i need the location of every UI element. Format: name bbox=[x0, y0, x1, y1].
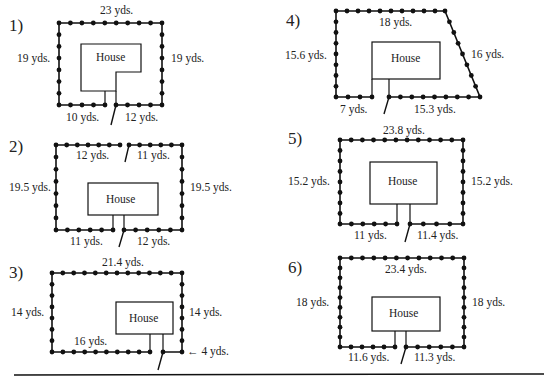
label-bottom-left: 16 yds. bbox=[74, 336, 107, 348]
label-right: 15.2 yds. bbox=[471, 176, 513, 188]
label-left: 14 yds. bbox=[11, 307, 44, 319]
label-left: 15.2 yds. bbox=[288, 176, 330, 188]
label-top: 23 yds. bbox=[100, 5, 133, 17]
label-left: 19.5 yds. bbox=[9, 182, 51, 194]
fence-diagrams bbox=[0, 0, 544, 380]
diagram-2-gate-top bbox=[125, 145, 129, 162]
label-bottom-right: 15.3 yds. bbox=[414, 104, 456, 116]
label-right: 16 yds. bbox=[471, 49, 504, 61]
diagram-1-gate bbox=[111, 105, 116, 125]
label-top: 23.4 yds. bbox=[385, 264, 427, 276]
diagram-4-gate bbox=[384, 97, 389, 114]
label-left: 15.6 yds. bbox=[285, 50, 327, 62]
label-right: 18 yds. bbox=[472, 297, 505, 309]
label-bottom-left: 11 yds. bbox=[70, 236, 103, 248]
label-top-left: 12 yds. bbox=[76, 150, 109, 162]
label-right: 19 yds. bbox=[171, 53, 204, 65]
bottom-divider bbox=[14, 374, 544, 375]
house-label: House bbox=[129, 313, 158, 325]
label-right: 19.5 yds. bbox=[190, 182, 232, 194]
diagram-5-gate bbox=[405, 224, 410, 242]
label-left: 18 yds. bbox=[296, 297, 329, 309]
label-top: 18 yds. bbox=[379, 17, 412, 29]
problem-number: 3) bbox=[9, 264, 23, 281]
problem-number: 6) bbox=[288, 259, 302, 276]
diagram-6-gate bbox=[401, 347, 406, 364]
house-label: House bbox=[96, 52, 125, 64]
problem-number: 1) bbox=[9, 17, 23, 34]
label-bottom-right: ← 4 yds. bbox=[187, 346, 229, 358]
problem-number: 4) bbox=[286, 12, 300, 29]
house-label: House bbox=[106, 194, 135, 206]
label-bottom-right: 11.4 yds. bbox=[417, 230, 458, 242]
label-top: 21.4 yds. bbox=[102, 257, 144, 269]
diagram-3-house bbox=[116, 302, 173, 352]
house-label: House bbox=[391, 53, 420, 65]
label-bottom-left: 10 yds. bbox=[66, 112, 99, 124]
label-right: 14 yds. bbox=[189, 307, 222, 319]
problem-number: 2) bbox=[9, 138, 23, 155]
diagram-3-gate bbox=[158, 352, 163, 370]
diagram-2-house bbox=[88, 183, 158, 230]
house-label: House bbox=[388, 176, 417, 188]
label-top: 23.8 yds. bbox=[383, 125, 425, 137]
label-bottom-left: 11.6 yds. bbox=[348, 352, 389, 364]
label-bottom-right: 12 yds. bbox=[125, 112, 158, 124]
label-bottom-right: 11.3 yds. bbox=[414, 352, 455, 364]
diagram-1-fence bbox=[59, 23, 162, 105]
diagram-2-gate-bottom bbox=[119, 230, 124, 247]
label-bottom-left: 11 yds. bbox=[354, 230, 387, 242]
diagram-6-house bbox=[372, 297, 440, 347]
diagram-5-house bbox=[370, 162, 437, 224]
house-label: House bbox=[389, 308, 418, 320]
diagram-4-house bbox=[372, 42, 440, 97]
label-left: 19 yds. bbox=[17, 53, 50, 65]
label-bottom-right: 12 yds. bbox=[137, 236, 170, 248]
label-bottom-left: 7 yds. bbox=[340, 104, 367, 116]
label-top-right: 11 yds. bbox=[137, 150, 170, 162]
problem-number: 5) bbox=[288, 130, 302, 147]
